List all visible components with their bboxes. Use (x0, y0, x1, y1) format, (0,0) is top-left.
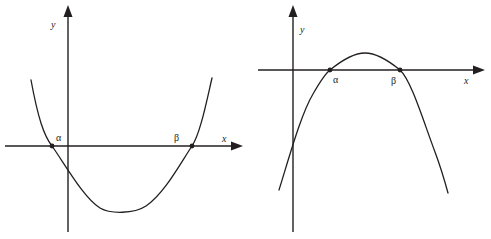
beta-root-point (190, 144, 195, 149)
beta-label: β (174, 132, 179, 143)
x-axis-label: x (463, 75, 469, 86)
upward-parabola-curve (31, 78, 212, 212)
beta-root-point (398, 68, 403, 73)
alpha-label: α (56, 132, 62, 143)
alpha-root-point (328, 68, 333, 73)
x-axis-arrow-icon (473, 66, 485, 75)
y-axis-arrow-icon (289, 5, 298, 17)
alpha-root-point (50, 144, 55, 149)
x-axis-arrow-icon (231, 142, 243, 151)
y-axis-label: y (299, 24, 305, 35)
downward-parabola-panel: α β x y (245, 0, 491, 239)
parabola-figure: α β x y α β x y (0, 0, 491, 239)
y-axis-label: y (50, 19, 56, 30)
y-axis-arrow-icon (64, 5, 73, 17)
x-axis-label: x (221, 133, 227, 144)
downward-parabola-curve (279, 53, 448, 193)
upward-parabola-panel: α β x y (0, 0, 245, 239)
alpha-label: α (333, 74, 339, 85)
beta-label: β (391, 75, 396, 86)
